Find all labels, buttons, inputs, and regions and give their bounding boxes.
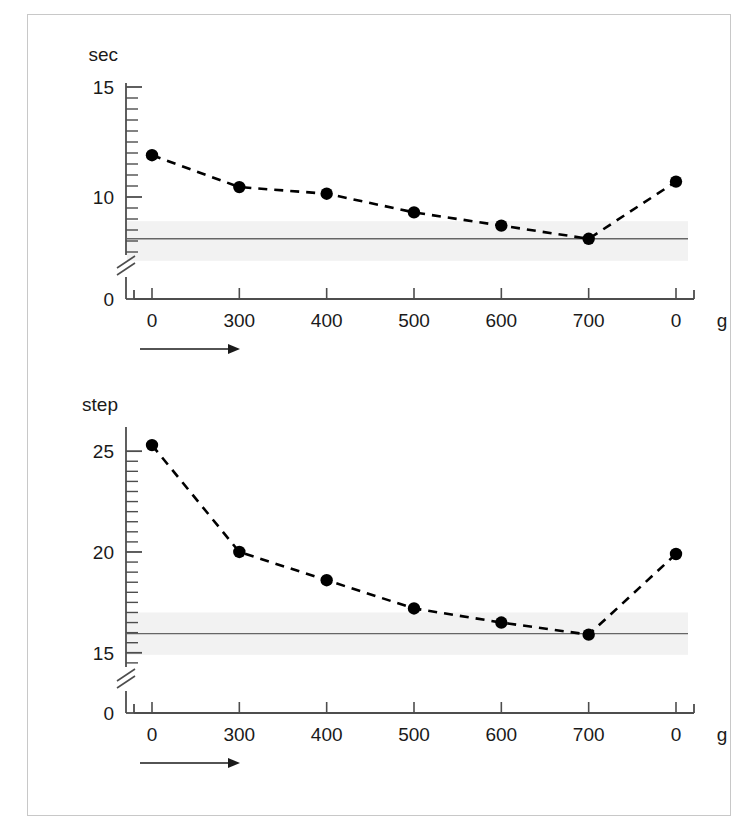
y-axis-unit-label: sec [88, 44, 118, 65]
x-axis-unit-label: g [717, 310, 728, 331]
data-point-marker [670, 548, 682, 560]
data-point-marker [495, 219, 507, 231]
x-tick-label: 500 [398, 724, 430, 745]
direction-arrow-head [228, 758, 240, 768]
data-point-marker [582, 233, 594, 245]
y-axis-break-zero-label: 0 [103, 289, 114, 310]
figure-frame: 1510sec003004005006007000g 252015step003… [27, 14, 731, 816]
y-axis-unit-label: step [82, 394, 118, 415]
data-point-marker [320, 188, 332, 200]
data-point-marker [495, 616, 507, 628]
axis-break-slash-2 [117, 676, 135, 688]
data-point-marker [233, 546, 245, 558]
chart-bottom-plot: 252015step003004005006007000g [28, 385, 732, 815]
x-tick-label: 0 [671, 310, 682, 331]
chart-top-container: 1510sec003004005006007000g [28, 15, 732, 385]
y-tick-label: 15 [93, 77, 114, 98]
axis-break-slash-2 [117, 263, 135, 275]
chart-bottom-container: 252015step003004005006007000g [28, 385, 732, 815]
x-tick-label: 600 [485, 310, 517, 331]
direction-arrow-head [228, 344, 240, 354]
data-point-marker [146, 439, 158, 451]
chart-top-plot: 1510sec003004005006007000g [28, 15, 732, 385]
axis-break-slash-1 [117, 669, 135, 681]
y-tick-label: 15 [93, 643, 114, 664]
y-tick-label: 20 [93, 542, 114, 563]
x-tick-label: 400 [311, 310, 343, 331]
data-point-marker [233, 181, 245, 193]
reference-band [127, 221, 688, 261]
y-tick-label: 25 [93, 441, 114, 462]
data-point-marker [146, 149, 158, 161]
data-point-marker [408, 602, 420, 614]
x-tick-label: 700 [573, 310, 605, 331]
data-point-marker [582, 628, 594, 640]
x-tick-label: 400 [311, 724, 343, 745]
data-point-marker [670, 175, 682, 187]
data-point-marker [408, 206, 420, 218]
y-tick-label: 10 [93, 187, 114, 208]
x-tick-label: 0 [671, 724, 682, 745]
x-tick-label: 300 [223, 310, 255, 331]
x-tick-label: 300 [223, 724, 255, 745]
data-point-marker [320, 574, 332, 586]
x-tick-label: 0 [147, 310, 158, 331]
x-tick-label: 600 [485, 724, 517, 745]
y-axis-break-zero-label: 0 [103, 703, 114, 724]
x-tick-label: 500 [398, 310, 430, 331]
x-tick-label: 0 [147, 724, 158, 745]
x-axis-unit-label: g [717, 724, 728, 745]
axis-break-slash-1 [117, 256, 135, 268]
x-tick-label: 700 [573, 724, 605, 745]
